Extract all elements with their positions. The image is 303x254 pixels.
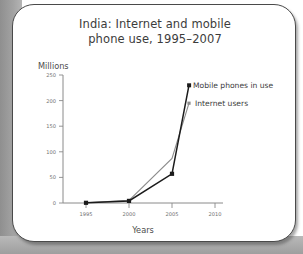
legend-label-mobile-phones: Mobile phones in use <box>193 81 274 90</box>
y-tick-label-200: 200 <box>46 98 56 104</box>
y-axis-ticks: 0 50 100 150 200 250 <box>46 72 63 206</box>
series-marker-internet-users-2007 <box>187 102 190 105</box>
y-axis-title: Millions <box>38 61 69 71</box>
chart-card: India: Internet and mobile phone use, 19… <box>12 4 296 242</box>
x-tick-label-1995: 1995 <box>80 211 93 217</box>
x-axis-ticks: 1995 2000 2005 2010 <box>80 203 222 217</box>
series-marker-mobile-2005 <box>170 172 174 176</box>
y-tick-label-250: 250 <box>46 72 56 78</box>
series-line-internet-users <box>86 103 189 203</box>
y-tick-label-150: 150 <box>46 123 56 129</box>
screenshot-page: India: Internet and mobile phone use, 19… <box>0 0 303 254</box>
y-tick-label-0: 0 <box>53 200 56 206</box>
line-chart-svg: Millions 0 50 100 150 200 250 <box>13 5 297 243</box>
plot-area: Millions 0 50 100 150 200 250 <box>13 5 297 243</box>
y-tick-label-100: 100 <box>46 149 56 155</box>
legend-label-internet-users: Internet users <box>195 99 248 108</box>
x-tick-label-2000: 2000 <box>123 211 136 217</box>
series-line-mobile-phones <box>86 85 189 203</box>
x-tick-label-2005: 2005 <box>166 211 179 217</box>
series-marker-mobile-2000 <box>127 199 131 203</box>
y-tick-label-50: 50 <box>50 174 56 180</box>
series-marker-mobile-1995 <box>84 201 88 205</box>
x-axis-title: Years <box>131 225 154 235</box>
x-tick-label-2010: 2010 <box>209 211 222 217</box>
series-marker-mobile-2007 <box>187 83 191 87</box>
